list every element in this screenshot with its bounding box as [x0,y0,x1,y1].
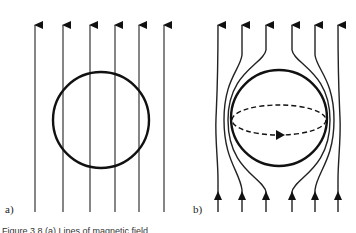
current-direction-arrow [276,130,285,140]
panel-b-label: b) [193,203,202,215]
panel-a-label: a) [5,203,14,215]
figure-caption: Figure 3.8 (a) Lines of magnetic field .… [2,226,158,233]
panel-b [216,25,340,212]
sphere-b [231,70,327,166]
panel-a [35,25,164,212]
bottom-arrowheads [214,191,342,200]
sphere-a [53,72,149,168]
current-loop [232,105,326,135]
diagram-figure [0,0,356,233]
